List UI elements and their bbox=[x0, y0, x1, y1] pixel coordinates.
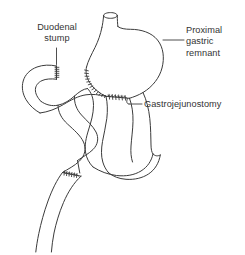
afferent-jejunal-limb bbox=[40, 89, 106, 114]
jejunal-coil bbox=[58, 89, 109, 173]
label-gastrojejunostomy: Gastrojejunostomy bbox=[144, 99, 221, 110]
lesser-curvature-staple-line bbox=[84, 67, 106, 98]
proximal-gastric-remnant bbox=[87, 27, 164, 99]
gastrojejunostomy-anastomosis bbox=[106, 94, 130, 101]
label-duodenal-stump: Duodenal stump bbox=[27, 22, 87, 45]
jejunojejunostomy-staple-line bbox=[63, 161, 82, 178]
label-proximal-gastric-remnant: Proximal gastric remnant bbox=[186, 25, 244, 59]
esophagus bbox=[102, 13, 118, 28]
duodenal-stump-closure-staple-line bbox=[55, 66, 60, 79]
surgical-diagram: Duodenal stump Proximal gastric remnant … bbox=[0, 0, 245, 255]
descending-jejunal-limbs bbox=[36, 154, 153, 252]
